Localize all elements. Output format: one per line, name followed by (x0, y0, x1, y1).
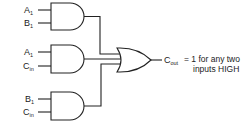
and-gate-2 (51, 45, 84, 73)
and3-input-b-label: B1 (25, 94, 34, 105)
carry-out-label: Cout (164, 55, 179, 66)
and-gate-1 (51, 3, 84, 30)
and3-input-c-label: Cin (23, 107, 34, 118)
and2-input-a-label: A1 (24, 47, 33, 58)
and3-output-wire (84, 64, 120, 106)
and1-output-wire (84, 17, 120, 55)
and-gate-3 (51, 92, 84, 120)
carry-out-circuit-diagram: A1 B1 A1 Cin B1 Cin Cout = 1 for any two… (0, 0, 248, 124)
and2-input-c-label: Cin (23, 61, 34, 72)
or-gate (117, 48, 151, 72)
and1-input-a-label: A1 (24, 5, 33, 16)
carry-out-note-line-2: inputs HIGH (193, 64, 239, 74)
and1-input-b-label: B1 (24, 18, 33, 29)
carry-out-note-line-1: = 1 for any two (184, 54, 240, 64)
